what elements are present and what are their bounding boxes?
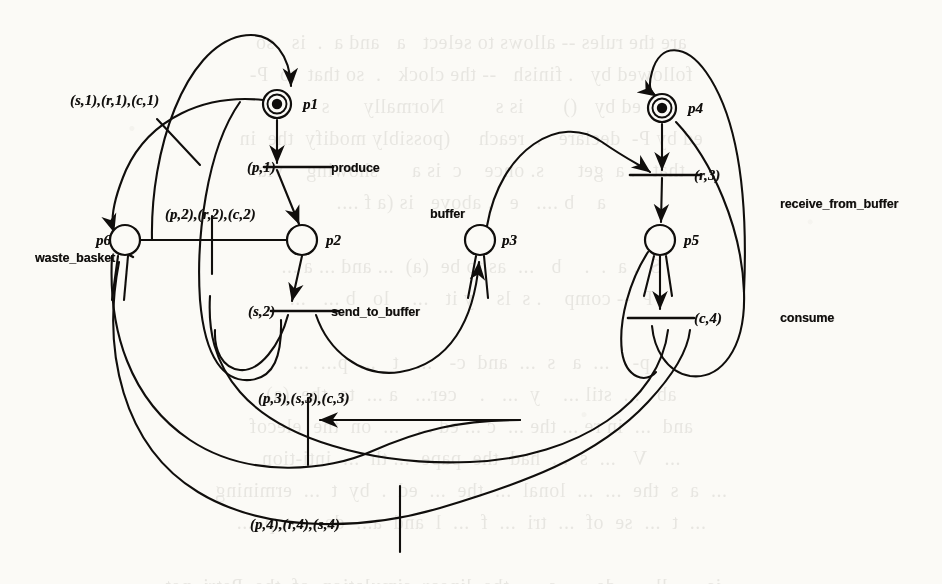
places-group	[110, 90, 676, 255]
transition-label-consume: consume	[780, 311, 834, 325]
place-p3[interactable]	[465, 225, 495, 255]
arc-send-to-buffer-dip-left	[215, 315, 288, 370]
place-name-p3: p3	[502, 232, 517, 249]
arc-label-r3: (r,3)	[694, 167, 720, 184]
transition-label-send-to-buffer: send_to_buffer	[331, 305, 420, 319]
arc-bottom-return-upper-right	[210, 296, 668, 462]
arc-receive-from-buffer-to-p5	[661, 178, 662, 222]
place-p1[interactable]	[263, 90, 291, 118]
place-p4[interactable]	[648, 94, 676, 122]
arc-bottom-return-upper-left	[112, 256, 520, 468]
token-p1	[272, 99, 282, 109]
token-p4	[657, 103, 667, 113]
arc-produce-to-p2	[277, 170, 299, 224]
arc-inner-left-sweep-2	[250, 320, 281, 380]
arc-into-p3-b	[484, 256, 488, 298]
arc-into-p5-a	[644, 256, 654, 296]
arc-p3-to-receive-from-buffer	[487, 132, 650, 226]
arc-label-p3-s3-c3: (p,3),(s,3),(c,3)	[258, 390, 350, 407]
place-p2[interactable]	[287, 225, 317, 255]
arc-label-c4: (c,4)	[694, 310, 722, 327]
figure-canvas: are the rules -- allows to select a and …	[0, 0, 942, 584]
place-p5[interactable]	[645, 225, 675, 255]
transition-label-produce: produce	[331, 161, 380, 175]
arc-into-p5-b	[666, 256, 672, 296]
place-name-p6: p6	[96, 232, 111, 249]
place-name-p4: p4	[688, 100, 703, 117]
place-label-buffer: buffer	[430, 207, 465, 221]
transition-label-waste-basket: waste_basket	[35, 251, 115, 265]
arc-into-p6-a	[124, 256, 128, 300]
arc-label-s2: (s,2)	[248, 303, 275, 320]
arc-label-s1-r1-c1: (s,1),(r,1),(c,1)	[70, 92, 159, 109]
petri-net-graph	[0, 0, 942, 584]
arc-label-p1: (p,1)	[247, 159, 276, 176]
place-name-p2: p2	[326, 232, 341, 249]
transition-label-receive-from-buffer: receive_from_buffer	[780, 197, 898, 211]
arc-label-p4-r4-s4: (p,4),(r,4),(s,4)	[250, 516, 340, 533]
arc-p2-to-send-to-buffer	[292, 256, 302, 301]
place-name-p1: p1	[303, 96, 318, 113]
arc-label-p2-r2-c2: (p,2),(r,2),(c,2)	[165, 206, 256, 223]
arc-inner-left-sweep	[199, 102, 250, 380]
place-name-p5: p5	[684, 232, 699, 249]
